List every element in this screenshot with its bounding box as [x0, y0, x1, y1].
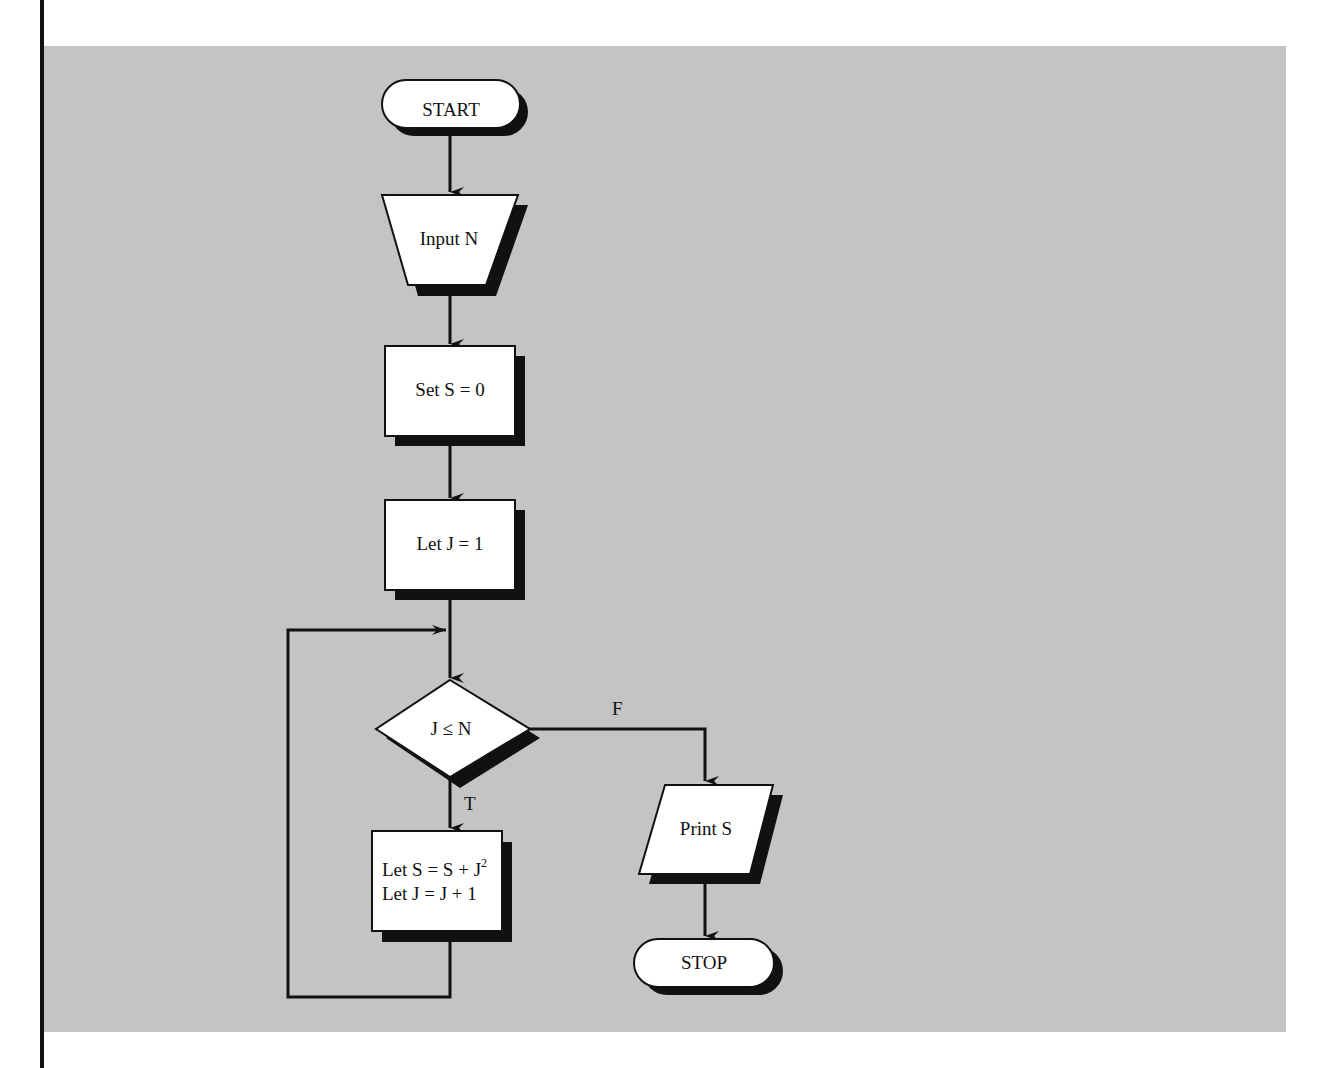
loop-body-line2: Let J = J + 1: [382, 883, 477, 904]
set-s-label: Set S = 0: [415, 379, 484, 400]
let-j-process: Let J = 1: [385, 500, 525, 600]
let-j-label: Let J = 1: [416, 533, 483, 554]
decision-label: J ≤ N: [430, 718, 471, 739]
set-s-process: Set S = 0: [385, 346, 525, 446]
false-branch-label: F: [612, 698, 623, 719]
flowchart: START Input N Set S = 0 Let J = 1 J ≤ N …: [0, 0, 1334, 1068]
decision-node: J ≤ N: [376, 680, 540, 788]
start-terminal: START: [382, 80, 528, 136]
stop-label: STOP: [681, 952, 727, 973]
print-node: Print S: [639, 785, 783, 884]
loop-body-line1: Let S = S + J2: [382, 856, 487, 881]
true-branch-label: T: [464, 793, 476, 814]
start-label: START: [422, 99, 480, 120]
input-label: Input N: [420, 228, 479, 249]
edge-decision-print-false: [520, 729, 705, 781]
input-node: Input N: [382, 195, 528, 296]
loop-body-process: Let S = S + J2 Let J = J + 1: [372, 831, 512, 942]
print-label: Print S: [680, 818, 732, 839]
stop-terminal: STOP: [634, 939, 783, 995]
